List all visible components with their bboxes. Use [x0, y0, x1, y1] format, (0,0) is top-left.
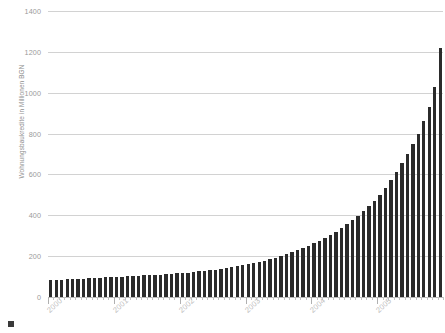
x-axis-tick-labels: 200020012002200320042005	[0, 0, 445, 333]
x-tick-label-2001: 2001	[111, 296, 130, 315]
legend-swatch	[8, 321, 14, 327]
x-tick-label-2004: 2004	[308, 296, 327, 315]
x-tick-label-2003: 2003	[243, 296, 262, 315]
legend	[8, 321, 14, 327]
x-tick-label-2002: 2002	[177, 296, 196, 315]
bar-chart: Wohnungsbaukredite in Millionen BGN 0200…	[0, 0, 445, 333]
x-tick-label-2000: 2000	[45, 296, 64, 315]
x-tick-label-2005: 2005	[374, 296, 393, 315]
